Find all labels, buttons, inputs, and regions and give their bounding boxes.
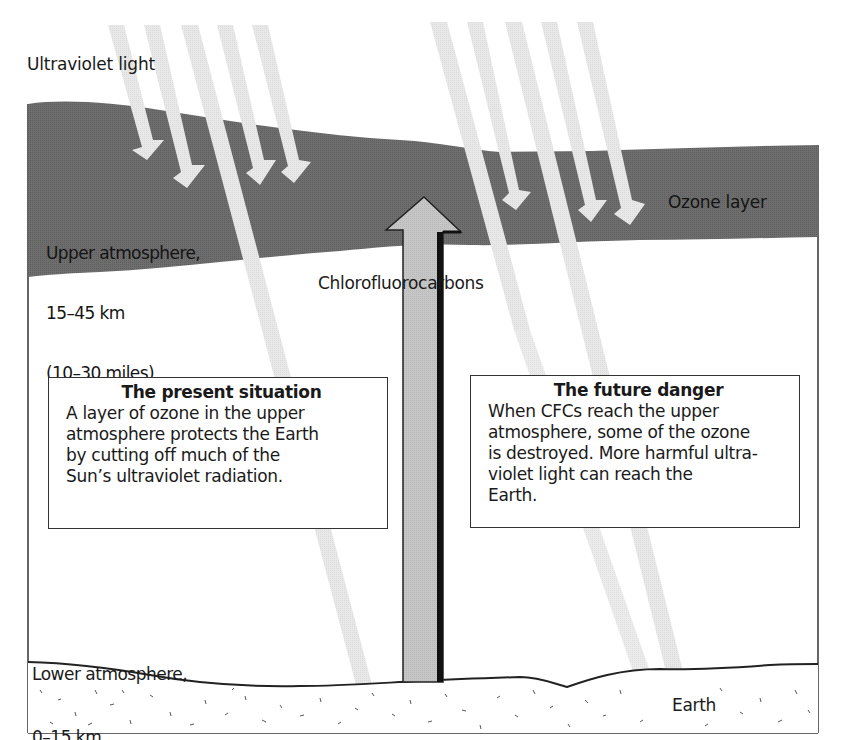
lower-atmosphere-line1: Lower atmosphere, xyxy=(32,664,187,685)
earth-label: Earth xyxy=(672,695,716,715)
lower-atmosphere-line2: 0–15 km xyxy=(32,727,187,740)
present-situation-box: The present situation A layer of ozone i… xyxy=(48,377,388,529)
present-situation-title: The present situation xyxy=(66,382,377,403)
upper-atmosphere-line1: Upper atmosphere, xyxy=(46,243,200,263)
uv-arrows-right xyxy=(430,22,690,700)
cfc-arrow xyxy=(386,197,461,682)
future-danger-title: The future danger xyxy=(488,380,789,401)
future-danger-box: The future danger When CFCs reach the up… xyxy=(470,375,800,528)
ultraviolet-light-label: Ultraviolet light xyxy=(27,54,155,74)
cfc-label: Chlorofluorocarbons xyxy=(318,273,484,293)
upper-atmosphere-line2: 15–45 km xyxy=(46,303,200,323)
lower-atmosphere-label: Lower atmosphere, 0–15 km (0–10 miles) xyxy=(32,622,187,740)
ozone-diagram: Ultraviolet light Upper atmosphere, 15–4… xyxy=(0,0,845,740)
future-danger-body: When CFCs reach the upper atmosphere, so… xyxy=(488,401,789,506)
present-situation-body: A layer of ozone in the upper atmosphere… xyxy=(66,403,377,487)
ozone-layer-label: Ozone layer xyxy=(668,192,767,212)
